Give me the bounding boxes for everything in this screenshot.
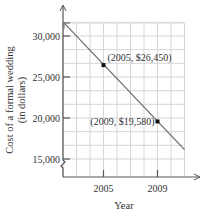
y-axis-title-line1: Cost of a formal wedding (4, 46, 15, 154)
axes: 15,00020,00025,00030,00020052009 (33, 5, 201, 194)
y-tick-label: 25,000 (33, 72, 61, 83)
trend-line (64, 23, 185, 150)
y-axis-title-line2: (in dollars) (16, 76, 28, 123)
y-tick-label: 20,000 (33, 113, 61, 124)
x-tick-label: 2009 (148, 183, 168, 194)
grid-lines (63, 22, 185, 177)
x-tick-label: 2005 (94, 183, 114, 194)
data-point-label: (2005, $26,450) (108, 52, 172, 64)
y-tick-label: 15,000 (33, 154, 61, 165)
y-tick-label: 30,000 (33, 31, 61, 42)
x-axis-title: Year (114, 200, 134, 211)
data-point-label: (2009, $19,580) (90, 116, 154, 128)
y-axis (61, 6, 65, 177)
chart: 15,00020,00025,00030,00020052009 (2005, … (0, 0, 208, 216)
labels: Year Cost of a formal wedding (in dollar… (4, 46, 134, 211)
trend-line-segment (64, 23, 185, 150)
data-point-marker (102, 63, 106, 67)
data-point-marker (156, 119, 160, 123)
